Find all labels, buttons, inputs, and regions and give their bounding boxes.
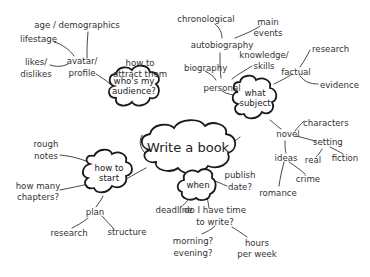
leaf-time-1: do I have time (184, 205, 246, 215)
leaf-morning-2: evening? (174, 248, 213, 258)
subject-label-2: subject (239, 98, 271, 108)
connector-start-chapters (60, 184, 88, 190)
when-label: when (186, 180, 209, 190)
leaf-main-1: main (257, 17, 278, 27)
connector-start-plan (96, 196, 103, 207)
leaf-research: research (312, 44, 349, 54)
mind-map: Write a book who's my audience? what sub… (0, 0, 370, 277)
leaf-likes-1: likes/ (25, 57, 47, 67)
leaf-ideas: ideas (275, 153, 298, 163)
central-node: Write a book (142, 120, 236, 174)
leaf-biography: biography (184, 63, 227, 73)
leaf-rough-2: notes (34, 151, 58, 161)
audience-leaves: how to attract them avatar/ profile age … (20, 20, 167, 79)
connector-avatar-lifestage (54, 42, 74, 56)
leaf-knowledge-1: knowledge/ (239, 50, 289, 60)
leaf-factual: factual (281, 67, 311, 77)
connector-ideas-crime (289, 162, 305, 174)
leaf-time-2: to write? (196, 217, 234, 227)
connector-time-morning (202, 226, 215, 234)
leaf-real: real (305, 155, 321, 165)
leaf-romance: romance (259, 188, 297, 198)
leaf-chapters-2: chapters? (17, 192, 59, 202)
leaf-publish-2: date? (228, 182, 252, 192)
node-when: when (178, 169, 216, 200)
central-title: Write a book (147, 140, 230, 155)
leaf-fiction: fiction (332, 153, 359, 163)
leaf-attract-2: attract them (113, 69, 167, 79)
start-label-2: start (99, 173, 120, 183)
audience-label-2: audience? (112, 86, 156, 96)
leaf-main-2: events (254, 28, 283, 38)
connector-time-hours (232, 227, 247, 237)
node-start: how to start (83, 150, 132, 193)
connector-audience-avatar (96, 74, 110, 84)
leaf-likes-2: dislikes (20, 69, 52, 79)
connector-plan-research (72, 218, 88, 228)
connector-novel-ideas (285, 141, 286, 153)
leaf-hours-2: per week (237, 249, 277, 259)
leaf-personal: personal (203, 83, 240, 93)
leaf-morning-1: morning? (173, 236, 213, 246)
leaf-age-demographics: age / demographics (34, 20, 120, 30)
leaf-research: research (50, 228, 87, 238)
leaf-plan: plan (86, 207, 105, 217)
leaf-lifestage: lifestage (20, 34, 57, 44)
connector-subject-novel (270, 120, 281, 129)
leaf-novel: novel (276, 129, 299, 139)
leaf-setting: setting (313, 137, 343, 147)
connector-factual-evidence (300, 76, 318, 84)
leaf-avatar-2: profile (68, 68, 95, 78)
connector-factual-research (300, 50, 310, 67)
leaf-publish-1: publish (224, 170, 255, 180)
leaf-autobiography: autobiography (191, 40, 254, 50)
leaf-avatar-1: avatar/ (67, 56, 98, 66)
leaf-chronological: chronological (177, 14, 234, 24)
connector-ideas-romance (279, 162, 284, 186)
leaf-attract-1: how to (125, 58, 154, 68)
connector-start-rough (60, 155, 86, 161)
leaf-evidence: evidence (320, 80, 359, 90)
leaf-knowledge-2: skills (253, 61, 275, 71)
start-label-1: how to (94, 163, 123, 173)
leaf-chapters-1: how many (16, 181, 61, 191)
leaf-structure: structure (108, 227, 147, 237)
leaf-hours-1: hours (245, 238, 270, 248)
connector-avatar-age (87, 32, 88, 58)
subject-label-1: what (244, 88, 266, 98)
leaf-rough-1: rough (34, 139, 59, 149)
connector-autobiography-chronological (215, 24, 222, 38)
connector-avatar-likes (50, 64, 68, 66)
leaf-crime: crime (296, 174, 320, 184)
leaf-characters: characters (303, 118, 349, 128)
